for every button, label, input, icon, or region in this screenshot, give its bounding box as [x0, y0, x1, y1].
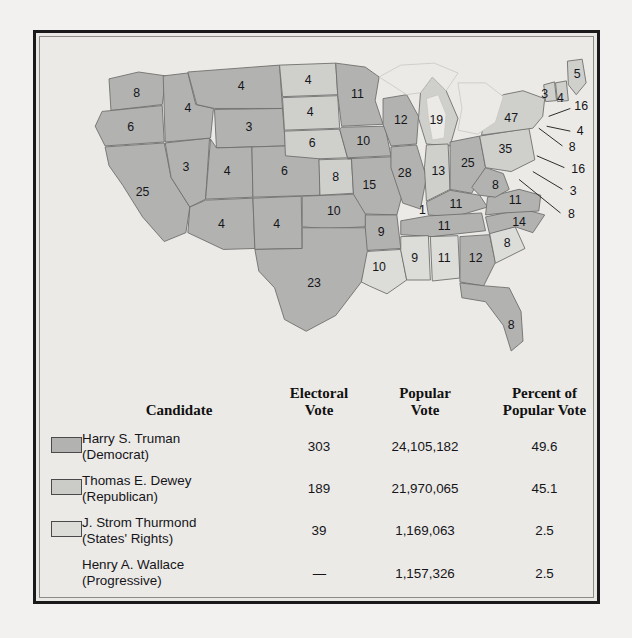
ev-label-nd: 4	[305, 73, 312, 87]
candidate-cell: Henry A. Wallace (Progressive)	[82, 552, 276, 594]
table-row[interactable]: Harry S. Truman (Democrat) 303 24,105,18…	[40, 426, 594, 468]
header-electoral-vote: Electoral Vote	[276, 385, 362, 426]
candidate-name: J. Strom Thurmond	[82, 515, 196, 530]
electoral-vote-cell: —	[276, 552, 362, 594]
header-percent: Percent of Popular Vote	[488, 385, 594, 426]
header-electoral-line2: Vote	[305, 402, 334, 418]
table-row[interactable]: J. Strom Thurmond (States' Rights) 39 1,…	[40, 510, 594, 552]
map-svg: 8 6 25 3 4 4 3 4 4 4 6 4 4 6 8 10 23 11 …	[40, 37, 593, 385]
state-ne[interactable]	[284, 129, 347, 159]
candidate-name: Henry A. Wallace	[82, 557, 184, 572]
ev-label-wy: 3	[246, 120, 253, 134]
ev-label-vt: 3	[541, 87, 548, 101]
ev-label-ri: 4	[577, 124, 584, 138]
legend-swatch-dewey	[51, 479, 82, 495]
ev-label-tx: 23	[307, 276, 321, 290]
leader-line-ri	[547, 126, 571, 131]
candidate-party: (States' Rights)	[82, 531, 276, 547]
electoral-map: 8 6 25 3 4 4 3 4 4 4 6 4 4 6 8 10 23 11 …	[40, 37, 593, 385]
ev-label-ok: 10	[327, 204, 341, 218]
header-percent-line2: Popular Vote	[503, 402, 587, 418]
ev-label-la: 10	[372, 260, 386, 274]
results-table-body: Harry S. Truman (Democrat) 303 24,105,18…	[40, 426, 594, 595]
ev-label-ny: 47	[504, 111, 518, 125]
legend-swatch-cell	[40, 468, 82, 510]
ev-label-ut: 4	[224, 164, 231, 178]
ev-label-al: 11	[438, 251, 451, 265]
ev-label-ga: 12	[469, 251, 483, 265]
election-map-figure: 8 6 25 3 4 4 3 4 4 4 6 4 4 6 8 10 23 11 …	[33, 30, 600, 604]
ev-label-ma: 16	[574, 99, 588, 113]
legend-swatch-thurmond	[51, 521, 82, 537]
candidate-party: (Republican)	[82, 489, 276, 505]
header-popular-vote: Popular Vote	[362, 385, 488, 426]
percent-cell: 45.1	[488, 468, 594, 510]
state-mt[interactable]	[188, 65, 283, 108]
header-popular-line2: Vote	[411, 402, 440, 418]
ev-label-nm: 4	[273, 217, 280, 231]
ev-label-sc: 8	[504, 236, 511, 250]
header-popular-line1: Popular	[399, 385, 451, 401]
ev-label-md: 8	[568, 207, 575, 221]
results-table-head: Candidate Electoral Vote Popular Vote Pe…	[40, 385, 594, 426]
ev-label-mn: 11	[351, 87, 364, 101]
ev-label-il: 28	[398, 166, 412, 180]
ev-label-ar: 9	[378, 225, 385, 239]
table-row[interactable]: Thomas E. Dewey (Republican) 189 21,970,…	[40, 468, 594, 510]
leader-line-de	[533, 172, 563, 190]
ev-label-ky: 11	[450, 197, 463, 211]
ev-label-co: 6	[281, 164, 288, 178]
candidate-cell: J. Strom Thurmond (States' Rights)	[82, 510, 276, 552]
ev-label-va: 11	[509, 193, 522, 207]
percent-cell: 49.6	[488, 426, 594, 468]
ev-label-nc: 14	[512, 215, 526, 229]
ev-label-dc: 1	[419, 203, 426, 217]
ev-label-ms: 9	[411, 251, 418, 265]
header-electoral-line1: Electoral	[290, 385, 348, 401]
candidate-name: Thomas E. Dewey	[82, 473, 191, 488]
ev-label-id: 4	[184, 101, 191, 115]
ev-label-wi: 12	[394, 113, 408, 127]
header-swatch	[40, 385, 82, 426]
ev-label-az: 4	[218, 217, 225, 231]
legend-swatch-truman	[51, 437, 82, 453]
candidate-name: Harry S. Truman	[82, 431, 180, 446]
ev-label-oh: 25	[461, 156, 475, 170]
header-percent-line1: Percent of	[512, 385, 577, 401]
electoral-vote-cell: 303	[276, 426, 362, 468]
legend-swatch-none	[51, 564, 82, 580]
legend-swatch-cell	[40, 552, 82, 594]
ev-label-nh: 4	[557, 91, 564, 105]
ev-label-tn: 11	[438, 219, 451, 233]
popular-vote-cell: 1,157,326	[362, 552, 488, 594]
ev-label-mt: 4	[238, 79, 245, 93]
popular-vote-cell: 21,970,065	[362, 468, 488, 510]
figure-inner: 8 6 25 3 4 4 3 4 4 4 6 4 4 6 8 10 23 11 …	[39, 36, 594, 598]
ev-label-ct: 8	[569, 140, 576, 154]
candidate-cell: Harry S. Truman (Democrat)	[82, 426, 276, 468]
ev-label-pa: 35	[498, 142, 512, 156]
popular-vote-cell: 24,105,182	[362, 426, 488, 468]
ev-label-wa: 8	[133, 86, 140, 100]
electoral-vote-cell: 189	[276, 468, 362, 510]
ev-label-ca: 25	[136, 185, 150, 199]
leader-line-nj	[537, 156, 565, 168]
leader-line-ma	[549, 108, 571, 116]
header-candidate: Candidate	[82, 385, 276, 426]
legend-swatch-cell	[40, 510, 82, 552]
legend-swatch-cell	[40, 426, 82, 468]
ev-label-me: 5	[574, 67, 581, 81]
results-header-row: Candidate Electoral Vote Popular Vote Pe…	[40, 385, 594, 426]
popular-vote-cell: 1,169,063	[362, 510, 488, 552]
candidate-cell: Thomas E. Dewey (Republican)	[82, 468, 276, 510]
percent-cell: 2.5	[488, 510, 594, 552]
table-row[interactable]: Henry A. Wallace (Progressive) — 1,157,3…	[40, 552, 594, 594]
results-table-container: Candidate Electoral Vote Popular Vote Pe…	[40, 385, 593, 598]
results-table: Candidate Electoral Vote Popular Vote Pe…	[40, 385, 594, 594]
candidate-party: (Democrat)	[82, 447, 276, 463]
ev-label-in: 13	[431, 164, 445, 178]
ev-label-de: 3	[570, 184, 577, 198]
ev-label-ia: 10	[356, 134, 370, 148]
ev-label-ne: 6	[309, 136, 316, 150]
percent-cell: 2.5	[488, 552, 594, 594]
